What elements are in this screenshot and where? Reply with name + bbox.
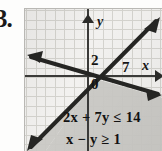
constraint-label-1: 2x + 7y ≤ 14 (63, 110, 141, 125)
coordinate-graph: 2 0 7 y x 2x + 7y ≤ 14 x − y ≥ 1 (24, 8, 162, 151)
problem-number: 3. (0, 6, 12, 31)
tick-label-0: 0 (91, 77, 99, 92)
figure-container: 3. (0, 0, 162, 151)
tick-label-7: 7 (122, 60, 130, 75)
tick-label-2: 2 (91, 53, 99, 68)
constraint-label-2: x − y ≥ 1 (66, 132, 121, 147)
y-axis-label: y (97, 15, 103, 29)
x-axis-label: x (142, 59, 149, 73)
